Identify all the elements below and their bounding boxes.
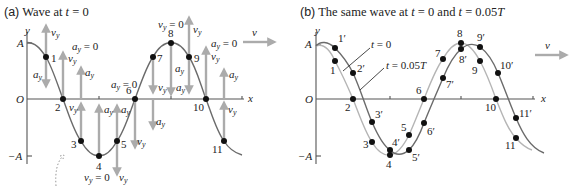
svg-text:ay: ay: [229, 68, 239, 82]
svg-text:3′: 3′: [375, 108, 383, 120]
svg-text:ay: ay: [176, 81, 186, 95]
svg-text:11: 11: [505, 139, 516, 151]
svg-text:10: 10: [193, 101, 205, 113]
svg-text:ay = 0: ay = 0: [72, 40, 99, 54]
dotted-curve-arrow: [56, 157, 62, 186]
svg-text:8: 8: [457, 27, 463, 39]
wave-diagram: (a) Wave at t = 0 y x O A −A: [0, 0, 570, 188]
svg-text:7′: 7′: [446, 78, 454, 90]
svg-text:2: 2: [55, 101, 61, 113]
svg-text:7: 7: [435, 47, 441, 59]
svg-text:6′: 6′: [427, 125, 435, 137]
y-axis-label: y: [24, 24, 30, 36]
origin-label-b: O: [305, 93, 313, 105]
svg-text:ay: ay: [156, 115, 166, 129]
svg-text:7: 7: [157, 52, 163, 64]
y-axis-label-b: y: [314, 24, 320, 36]
svg-text:ay: ay: [85, 66, 95, 80]
svg-text:3: 3: [363, 138, 369, 150]
svg-text:10: 10: [485, 101, 497, 113]
svg-text:4: 4: [96, 160, 102, 172]
amplitude-neg-label-b: −A: [298, 150, 312, 162]
svg-text:vy = 0: vy = 0: [84, 171, 110, 185]
svg-text:1′: 1′: [338, 32, 346, 44]
svg-text:1: 1: [51, 52, 57, 64]
svg-text:2′: 2′: [357, 62, 365, 74]
svg-text:vy: vy: [158, 81, 167, 95]
svg-text:4′: 4′: [392, 136, 400, 148]
svg-text:5: 5: [121, 138, 127, 150]
svg-text:6: 6: [126, 84, 132, 96]
x-axis-label: x: [247, 92, 253, 104]
svg-text:ay = 0: ay = 0: [211, 37, 238, 51]
svg-text:5: 5: [401, 121, 407, 133]
svg-text:vy: vy: [193, 23, 202, 37]
svg-text:ay: ay: [33, 68, 43, 82]
origin-label: O: [16, 93, 24, 105]
panel-b-title: (b) The same wave at t = 0 and t = 0.05T: [300, 5, 505, 19]
svg-text:9: 9: [194, 52, 200, 64]
svg-text:9′: 9′: [477, 31, 485, 43]
legend-t0: t = 0: [371, 38, 392, 50]
panel-a: (a) Wave at t = 0 y x O A −A: [4, 5, 272, 186]
amplitude-pos-label: A: [16, 37, 24, 49]
svg-text:5′: 5′: [412, 151, 420, 163]
svg-text:vy: vy: [68, 52, 77, 66]
amplitude-pos-label-b: A: [304, 38, 312, 50]
amplitude-neg-label: −A: [8, 150, 22, 162]
svg-text:8: 8: [168, 27, 174, 39]
svg-text:10′: 10′: [500, 59, 513, 71]
svg-text:4: 4: [386, 158, 392, 170]
svg-text:ay: ay: [175, 62, 185, 76]
svg-text:ay: ay: [104, 103, 114, 117]
svg-text:11′: 11′: [519, 107, 532, 119]
svg-text:ay: ay: [121, 103, 131, 117]
svg-text:8′: 8′: [459, 53, 467, 65]
svg-text:vy: vy: [119, 171, 128, 185]
svg-text:6: 6: [416, 84, 422, 96]
svg-text:vy: vy: [228, 103, 237, 117]
svg-text:1: 1: [330, 64, 336, 76]
svg-text:vy: vy: [69, 101, 78, 115]
panel-a-title: (a) Wave at t = 0: [4, 5, 89, 19]
wave-velocity-label-b: v: [545, 39, 550, 51]
panel-b: (b) The same wave at t = 0 and t = 0.05T…: [298, 5, 564, 170]
legend-t005T: t = 0.05T: [386, 59, 427, 71]
svg-text:vy: vy: [51, 26, 60, 40]
svg-text:11: 11: [212, 143, 223, 155]
svg-text:2: 2: [345, 101, 351, 113]
svg-text:vy: vy: [211, 50, 220, 64]
wave-velocity-label-a: v: [252, 26, 257, 38]
svg-text:9: 9: [472, 64, 478, 76]
svg-text:vy: vy: [137, 135, 146, 149]
x-axis-label-b: x: [540, 92, 546, 104]
svg-text:ay = 0: ay = 0: [111, 78, 138, 92]
svg-text:3: 3: [71, 138, 77, 150]
